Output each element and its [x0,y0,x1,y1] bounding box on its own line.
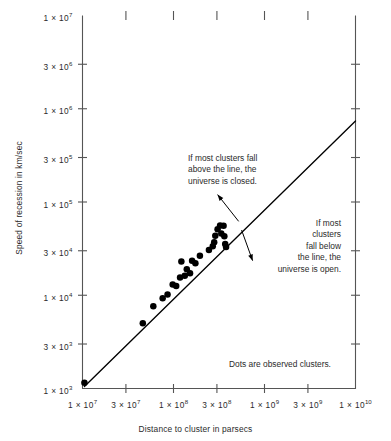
cluster-point [187,270,194,277]
annotation-dots-caption: Dots are observed clusters. [229,359,331,370]
hubble-diagram-figure: Speed of recession in km/sec Distance to… [0,0,391,441]
cluster-point [212,232,219,239]
cluster-point [197,253,204,260]
cluster-point [81,380,88,387]
cluster-point [220,223,227,230]
cluster-point [221,233,228,240]
cluster-point [164,291,171,298]
cluster-point [192,260,199,267]
cluster-data-points [81,222,229,386]
cluster-point [211,239,218,246]
cluster-point [173,283,180,290]
cluster-point [223,244,230,251]
axes-frame [83,16,356,389]
axis-tick-marks [78,11,360,393]
annotation-closed-universe: If most clusters fall above the line, th… [188,153,257,187]
cluster-point [178,258,185,265]
cluster-point [140,320,147,327]
cluster-point [150,303,157,310]
annotation-open-universe: If most clusters fall below the line, th… [249,218,341,275]
